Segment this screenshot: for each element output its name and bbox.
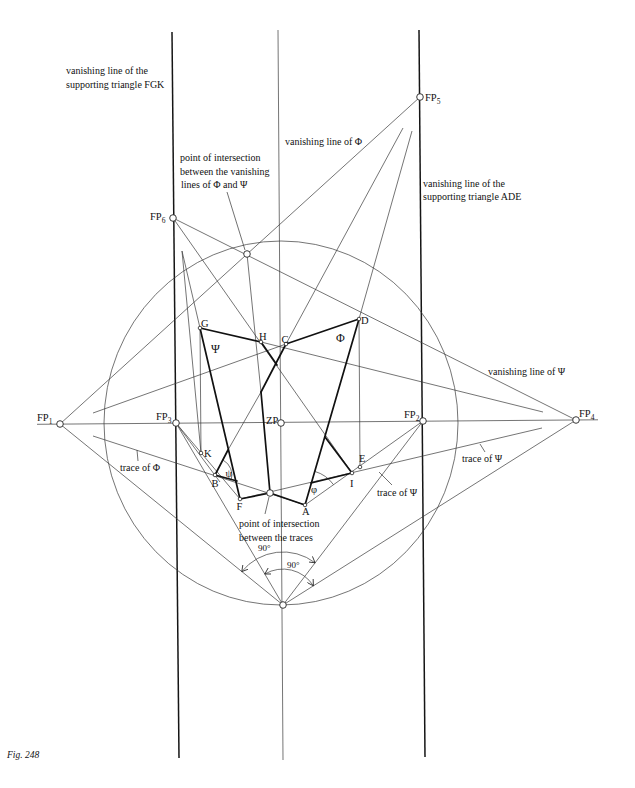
- k-parallel-line: [182, 251, 201, 453]
- vanishing-line-ade: [419, 30, 425, 757]
- point-b: [213, 473, 217, 477]
- label-plane-psi: Ψ: [211, 342, 220, 356]
- label-point-d: D: [361, 315, 369, 326]
- label-vanishing-line-ade-2: supporting triangle ADE: [423, 191, 521, 202]
- leader-trace-psi-lower: [379, 472, 392, 485]
- g-h-to-fp4-line: [261, 342, 543, 412]
- label-point-b: B: [212, 478, 219, 489]
- point-e: [358, 465, 362, 469]
- label-trace-psi-right: trace of Ψ: [462, 453, 503, 464]
- label-fp3-sub: 3: [168, 416, 172, 425]
- point-zp: [278, 420, 285, 427]
- vanishing-line-fgk: [172, 32, 179, 758]
- edge-i-upper: [325, 437, 352, 473]
- label-vanishing-intersection-3: lines of Φ and Ψ: [181, 179, 248, 190]
- label-trace-intersection-1: point of intersection: [239, 518, 320, 529]
- label-point-e: E: [359, 453, 365, 464]
- edge-f-x: [240, 493, 270, 499]
- c-b-hidden-line: [228, 392, 261, 450]
- edge-c-d: [286, 319, 359, 344]
- label-fp6-sub: 6: [162, 216, 166, 225]
- label-trace-phi: trace of Φ: [120, 462, 160, 473]
- label-fp6: FP6: [150, 211, 166, 225]
- label-fp3: FP3: [156, 411, 172, 425]
- point-fp2: [420, 418, 427, 425]
- label-fp6-main: FP: [150, 211, 162, 222]
- edge-i-left: [311, 473, 352, 483]
- label-vanishing-line-fgk-2: supporting triangle FGK: [66, 79, 165, 90]
- point-i: [350, 471, 354, 475]
- edge-c-lower: [261, 344, 286, 392]
- label-fp5-main: FP: [425, 92, 437, 103]
- plane-intersection-upper-line: [247, 254, 261, 392]
- d-e-line: [359, 319, 360, 467]
- point-vanishing-intersection: [244, 251, 251, 258]
- right-angle-arc-inner: [265, 569, 314, 586]
- principal-vertical-line: [278, 30, 283, 760]
- point-station: [280, 602, 287, 609]
- fp4-to-bottom-line: [283, 420, 576, 605]
- figure-caption: Fig. 248: [6, 750, 39, 760]
- label-angle-psi: ψ: [226, 468, 233, 479]
- leader-trace-phi: [137, 450, 138, 461]
- label-vanishing-line-psi: vanishing line of Ψ: [488, 366, 566, 377]
- label-fp1-sub: 1: [49, 417, 53, 426]
- right-angle-arc-outer: [242, 552, 315, 572]
- label-trace-intersection-2: between the traces: [239, 532, 313, 543]
- leader-trace-psi-right: [480, 444, 485, 452]
- g-k-line: [200, 328, 201, 453]
- c-b-extension-line: [286, 128, 403, 344]
- label-angle-phi: φ: [311, 484, 317, 495]
- leader-vanishing-intersection: [227, 192, 245, 250]
- label-point-g: G: [201, 318, 209, 329]
- label-fp2: FP2: [404, 409, 420, 423]
- label-point-i: I: [350, 478, 354, 489]
- edge-a-x: [270, 493, 305, 505]
- label-fp1-main: FP: [37, 412, 49, 423]
- label-vanishing-intersection-2: between the vanishing: [180, 166, 269, 177]
- fp1-to-bottom-line: [60, 424, 283, 605]
- label-right-angle-outer: 90°: [258, 543, 271, 553]
- vanishing-line-phi-line: [60, 97, 420, 424]
- d-a-extension-line: [359, 131, 412, 319]
- fp3-to-b-line: [176, 423, 220, 482]
- point-trace-intersection: [267, 490, 274, 497]
- label-point-h: H: [259, 331, 267, 342]
- label-point-c: C: [282, 334, 289, 345]
- perspective-construction-diagram: vanishing line of the supporting triangl…: [0, 0, 635, 788]
- point-k: [199, 451, 203, 455]
- label-zp: ZP: [266, 415, 278, 426]
- label-vanishing-line-fgk-1: vanishing line of the: [66, 65, 148, 76]
- leader-trace-intersection: [265, 497, 269, 514]
- label-right-angle-inner: 90°: [287, 560, 300, 570]
- label-fp4-main: FP: [579, 408, 591, 419]
- label-fp4-sub: 4: [591, 413, 595, 422]
- label-point-f: F: [237, 501, 243, 512]
- label-fp5: FP5: [425, 92, 441, 106]
- label-fp2-sub: 2: [416, 414, 420, 423]
- point-fp3: [173, 420, 180, 427]
- d-c-to-fp1-line: [93, 344, 286, 413]
- label-vanishing-line-phi: vanishing line of Φ: [285, 136, 362, 147]
- label-point-k: K: [204, 448, 212, 459]
- label-fp3-main: FP: [156, 411, 168, 422]
- edge-plane-intersection: [261, 392, 270, 493]
- label-fp5-sub: 5: [437, 97, 441, 106]
- marked-points: [57, 94, 580, 609]
- label-fp2-main: FP: [404, 409, 416, 420]
- label-vanishing-line-ade-1: vanishing line of the: [423, 178, 505, 189]
- vanishing-line-psi-line: [173, 218, 576, 420]
- leader-lines: [137, 192, 485, 514]
- label-plane-phi: Φ: [336, 331, 345, 345]
- point-fp5: [417, 94, 424, 101]
- label-vanishing-intersection-1: point of intersection: [180, 152, 261, 163]
- label-point-a: A: [302, 506, 310, 517]
- label-trace-psi-lower: trace of Ψ: [377, 487, 418, 498]
- point-fp1: [57, 421, 64, 428]
- point-fp6: [170, 215, 177, 222]
